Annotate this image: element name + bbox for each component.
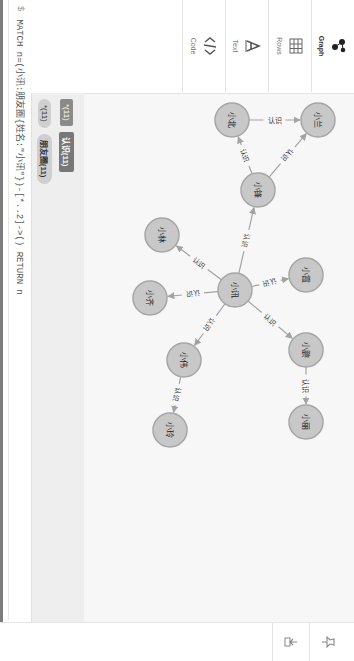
node-caption: 小林	[157, 227, 167, 243]
relationship-label: 认识	[262, 276, 278, 288]
spacer	[32, 0, 84, 93]
relationship-label: 认识	[171, 387, 183, 402]
tab-label: Code	[191, 38, 198, 55]
relationship-edge[interactable]: 认识	[168, 288, 218, 298]
node-labels-row: *(11) 朋友圈(11)	[36, 99, 54, 184]
node-caption: 小北	[227, 112, 236, 128]
graph-node-xiaopeng[interactable]: 小鹏	[289, 333, 323, 367]
rel-type-renshi[interactable]: 认识(11)	[60, 132, 75, 172]
graph-node-xiaowei[interactable]: 小伟	[167, 343, 201, 377]
graph-node-xiaoqi[interactable]: 小齐	[133, 281, 167, 315]
frame-divider	[0, 0, 3, 660]
graph-visualization[interactable]: 认识认识认识认识认识认识认识认识认识认识认识小讯小锋小北小兰小林小齐小伟小玲小霞…	[84, 93, 354, 660]
node-label-pengyouquan[interactable]: 朋友圈(11)	[38, 134, 53, 184]
relationship-edge[interactable]: 认识	[239, 208, 254, 274]
relationship-label: 认识	[202, 316, 218, 333]
table-icon	[286, 38, 304, 54]
query-text: MATCH n=(小讯:朋友圈{姓名:"小讯"})-[*..2]->() RET…	[14, 19, 27, 294]
graph-node-xiaoli[interactable]: 小丽	[289, 405, 323, 439]
query-prompt: $	[16, 6, 26, 11]
tab-label: Rows	[277, 37, 284, 55]
relationship-label: 认识	[240, 233, 252, 249]
graph-node-xiaoxun[interactable]: 小讯	[218, 273, 252, 307]
relationship-edge[interactable]: 认识	[269, 134, 306, 177]
relationship-label: 认识	[262, 312, 279, 328]
node-caption: 小丽	[301, 414, 310, 430]
pin-icon	[321, 635, 335, 649]
node-caption: 小讯	[230, 282, 239, 298]
node-caption: 小齐	[145, 290, 155, 306]
export-icon	[284, 635, 298, 649]
graph-canvas[interactable]: 认识认识认识认识认识认识认识认识认识认识认识小讯小锋小北小兰小林小齐小伟小玲小霞…	[84, 93, 354, 660]
relationship-edge[interactable]: 认识	[195, 304, 225, 346]
relationship-edge[interactable]: 认识	[171, 377, 183, 413]
relationship-label: 认识	[301, 379, 310, 393]
relationship-edge[interactable]: 认识	[248, 301, 292, 338]
relationship-edge[interactable]: 认识	[238, 137, 252, 174]
graph-node-xiaofeng[interactable]: 小锋	[241, 173, 275, 207]
graph-node-xiaoxia[interactable]: 小霞	[289, 258, 323, 292]
graph-icon	[328, 37, 348, 55]
relationship-label: 认识	[190, 255, 207, 271]
node-caption: 小玲	[165, 422, 175, 438]
relationship-edge[interactable]: 认识	[249, 116, 300, 125]
tab-text[interactable]: Text	[225, 0, 268, 92]
export-button[interactable]	[272, 623, 309, 661]
graph-node-xiaobei[interactable]: 小北	[215, 103, 249, 137]
text-icon	[242, 38, 262, 54]
node-caption: 小兰	[313, 112, 323, 128]
legend-bar: *(11) 朋友圈(11) *(11) 认识(11)	[31, 93, 84, 653]
view-tabs: GraphRowsTextCode	[84, 0, 354, 94]
tab-label: Text	[233, 40, 240, 53]
tab-label: Graph	[319, 36, 326, 57]
node-caption: 小伟	[179, 352, 189, 368]
node-caption: 小霞	[301, 267, 310, 283]
relationship-types-row: *(11) 认识(11)	[58, 99, 76, 172]
relationship-label: 认识	[238, 148, 251, 164]
relationship-label: 认识	[268, 116, 282, 125]
graph-node-xiaolan[interactable]: 小兰	[301, 103, 335, 137]
relationship-edge[interactable]: 认识	[176, 246, 221, 280]
node-caption: 小鹏	[301, 342, 311, 358]
tab-code[interactable]: Code	[182, 0, 225, 92]
tab-graph[interactable]: Graph	[311, 0, 354, 92]
relationship-label: 认识	[279, 147, 295, 163]
tab-rows[interactable]: Rows	[268, 0, 311, 92]
frame-toolbar	[0, 622, 354, 661]
relationship-label: 认识	[186, 288, 201, 298]
rel-type-all[interactable]: *(11)	[61, 99, 74, 126]
node-caption: 小锋	[253, 182, 263, 198]
node-label-all[interactable]: *(11)	[39, 99, 52, 128]
code-icon	[200, 37, 218, 55]
graph-node-xiaolin[interactable]: 小林	[145, 218, 179, 252]
relationship-edge[interactable]: 认识	[252, 276, 289, 288]
pin-button[interactable]	[309, 623, 346, 661]
graph-node-xiaoling[interactable]: 小玲	[153, 413, 187, 447]
relationship-edge[interactable]: 认识	[301, 367, 310, 404]
query-bar[interactable]: $ MATCH n=(小讯:朋友圈{姓名:"小讯"})-[*..2]->() R…	[8, 0, 32, 620]
